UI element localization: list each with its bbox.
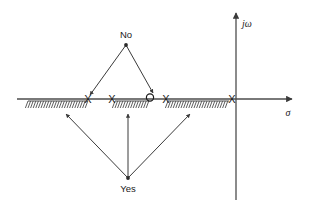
hatch-tick [178,101,181,108]
no-leader-left [90,45,126,95]
hatch-tick [212,101,215,108]
hatch-tick [36,101,39,108]
hatch-tick [146,101,149,108]
hatch-tick [217,101,220,108]
zero-glyph [146,94,153,101]
pole-1: X [84,93,92,105]
hatch-tick [38,101,41,108]
hatch-tick [77,101,80,108]
hatch-tick [184,101,187,108]
hatch-tick [59,101,62,108]
hatch-tick [210,101,213,108]
hatch-tick [128,101,131,108]
hatch-tick [197,101,200,108]
hatch-tick [133,101,136,108]
hatch-tick [44,101,47,108]
yes-apex-dot [126,176,130,180]
hatch-tick [173,101,176,108]
hatch-tick [72,101,75,108]
hatch-tick [49,101,52,108]
hatch-tick [41,101,44,108]
no-annotation-label: No [120,29,132,40]
hatch-tick [202,101,205,108]
hatch-region-3 [165,101,229,108]
yes-annotation-group: Yes [66,114,190,194]
hatch-tick [176,101,179,108]
hatch-tick [189,101,192,108]
hatch-tick [67,101,70,108]
yes-leader-left [66,114,128,178]
hatch-region-1 [25,101,88,108]
no-leader-right [126,45,153,93]
hatch-tick [80,101,83,108]
hatch-tick [199,101,202,108]
hatch-tick [171,101,174,108]
s-plane-diagram: σ jω XXXX No Yes [0,0,310,210]
hatch-tick [194,101,197,108]
hatch-tick [75,101,78,108]
hatch-tick [25,101,28,108]
hatch-tick [31,101,34,108]
pole-4: X [228,93,236,105]
hatch-tick [70,101,73,108]
yes-annotation-label: Yes [120,183,136,194]
hatch-tick [186,101,189,108]
hatch-tick [46,101,49,108]
hatch-tick [181,101,184,108]
hatch-tick [131,101,134,108]
hatch-tick [51,101,54,108]
hatched-regions [25,101,229,108]
hatch-tick [136,101,139,108]
hatch-tick [204,101,207,108]
hatch-tick [120,101,123,108]
hatch-tick [54,101,57,108]
hatch-tick [57,101,60,108]
pole-3: X [162,93,170,105]
zero-1 [146,94,153,101]
hatch-region-2 [112,101,149,108]
hatch-tick [191,101,194,108]
hatch-tick [64,101,67,108]
sigma-axis-label: σ [286,107,292,118]
hatch-tick [118,101,121,108]
no-annotation-group: No [90,29,153,95]
pole-2: X [108,93,116,105]
hatch-tick [123,101,126,108]
hatch-tick [220,101,223,108]
hatch-tick [144,101,147,108]
hatch-tick [125,101,128,108]
hatch-tick [62,101,65,108]
no-apex-dot [124,43,128,47]
hatch-tick [28,101,31,108]
hatch-tick [141,101,144,108]
hatch-tick [207,101,210,108]
hatch-tick [215,101,218,108]
figure-canvas: σ jω XXXX No Yes [0,0,310,210]
hatch-tick [33,101,36,108]
hatch-tick [223,101,226,108]
hatch-tick [138,101,141,108]
yes-leader-right [128,114,190,178]
j-omega-axis-label: jω [240,18,252,29]
